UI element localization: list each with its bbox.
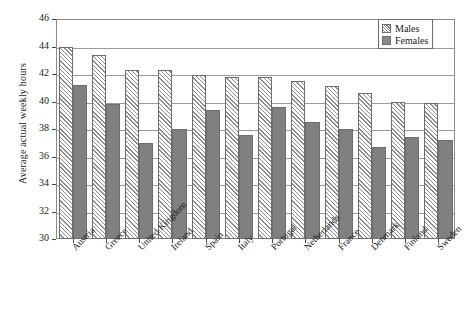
x-axis-label: Ireland [169, 226, 196, 253]
x-axis-label: Netherlands [302, 213, 342, 253]
bar-chart: Average actual weekly hours 464442403836… [0, 0, 470, 310]
x-axis-label: Greece [103, 226, 130, 253]
x-axis-label: Sweden [435, 224, 464, 253]
x-axis-label: Austria [70, 225, 98, 253]
x-axis-label: Spain [203, 230, 226, 253]
x-axis-label: Finland [402, 224, 430, 252]
x-axis-label: France [336, 227, 362, 253]
legend-item-females: Females [382, 34, 428, 46]
x-axis-label: Portugal [269, 222, 300, 253]
legend-label-males: Males [395, 23, 419, 34]
chart-legend: Males Females [378, 19, 433, 49]
legend-item-males: Males [382, 22, 428, 34]
x-axis-label: Italy [236, 233, 256, 253]
legend-label-females: Females [395, 35, 428, 46]
legend-swatch-males-icon [382, 24, 391, 33]
legend-swatch-females-icon [382, 36, 391, 45]
x-axis-label: Denmark [369, 220, 402, 253]
